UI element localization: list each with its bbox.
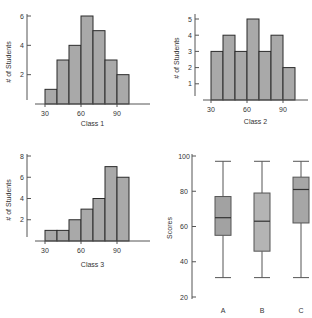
histogram-bar	[105, 167, 117, 241]
histogram-bar	[69, 220, 81, 241]
y-tick-label: 100	[178, 153, 190, 160]
y-tick-label: 6	[20, 174, 24, 181]
boxplot-scores: 20406080100ABCScores	[166, 153, 309, 315]
box-b	[254, 193, 270, 251]
histogram-bar	[283, 68, 295, 100]
figure: 246306090Class 1# of Students 1234530609…	[0, 0, 312, 318]
histogram-bar	[57, 60, 69, 104]
histogram-bar	[105, 60, 117, 104]
histogram-bar	[93, 199, 105, 242]
y-axis-title: Scores	[166, 217, 173, 239]
y-tick-label: 20	[180, 294, 188, 301]
x-tick-label: 90	[113, 110, 121, 117]
histogram-bar	[57, 230, 69, 241]
histogram-class-2: 12345306090Class 2# of Students	[173, 14, 308, 125]
x-tick-label: 90	[113, 247, 121, 254]
histogram-bar	[81, 16, 93, 104]
y-tick-label: 6	[20, 13, 24, 20]
y-axis-title: # of Students	[5, 41, 12, 83]
histogram-bar	[45, 230, 57, 241]
y-tick-label: 4	[20, 42, 24, 49]
y-tick-label: 60	[180, 223, 188, 230]
histogram-bar	[223, 35, 235, 100]
histogram-bar	[69, 45, 81, 104]
x-tick-label: 30	[41, 247, 49, 254]
histogram-bar	[81, 209, 93, 241]
y-tick-label: 80	[180, 188, 188, 195]
x-axis-title: Class 2	[244, 118, 267, 125]
x-tick-label: 30	[41, 110, 49, 117]
x-tick-label: 60	[77, 247, 85, 254]
y-tick-label: 40	[180, 258, 188, 265]
histogram-bar	[93, 31, 105, 104]
x-axis-title: Class 3	[81, 261, 104, 268]
y-axis-title: # of Students	[5, 179, 12, 221]
box-c	[293, 177, 309, 223]
category-label: B	[260, 307, 265, 314]
histogram-bar	[117, 75, 129, 104]
histogram-bar	[259, 51, 271, 100]
histogram-bar	[117, 177, 129, 241]
y-tick-label: 4	[188, 32, 192, 39]
box-a	[215, 197, 231, 236]
category-label: C	[298, 307, 303, 314]
x-axis-title: Class 1	[81, 120, 104, 127]
category-label: A	[221, 307, 226, 314]
histogram-bar	[271, 35, 283, 100]
y-tick-label: 1	[188, 80, 192, 87]
y-tick-label: 8	[20, 153, 24, 160]
x-tick-label: 60	[243, 106, 251, 113]
histogram-class-1: 246306090Class 1# of Students	[5, 13, 150, 128]
y-tick-label: 2	[188, 64, 192, 71]
y-tick-label: 3	[188, 48, 192, 55]
histogram-bar	[235, 51, 247, 100]
x-tick-label: 90	[279, 106, 287, 113]
histogram-bar	[247, 19, 259, 100]
histogram-bar	[45, 89, 57, 104]
y-tick-label: 2	[20, 216, 24, 223]
y-tick-label: 5	[188, 16, 192, 23]
y-axis-title: # of Students	[173, 37, 180, 79]
x-tick-label: 30	[207, 106, 215, 113]
x-tick-label: 60	[77, 110, 85, 117]
histogram-class-3: 2468306090Class 3# of Students	[5, 153, 150, 269]
y-tick-label: 4	[20, 195, 24, 202]
y-tick-label: 2	[20, 71, 24, 78]
histogram-bar	[211, 51, 223, 100]
